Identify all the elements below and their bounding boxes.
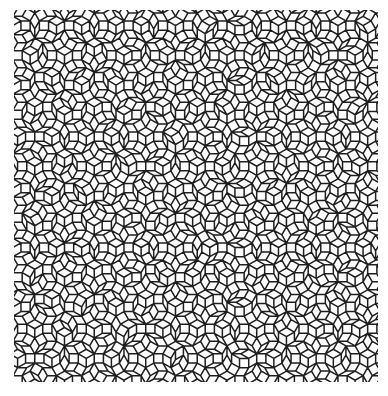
tiling-lines (14, 10, 378, 382)
tiling-pattern (14, 10, 378, 382)
tile-edges (14, 10, 378, 382)
